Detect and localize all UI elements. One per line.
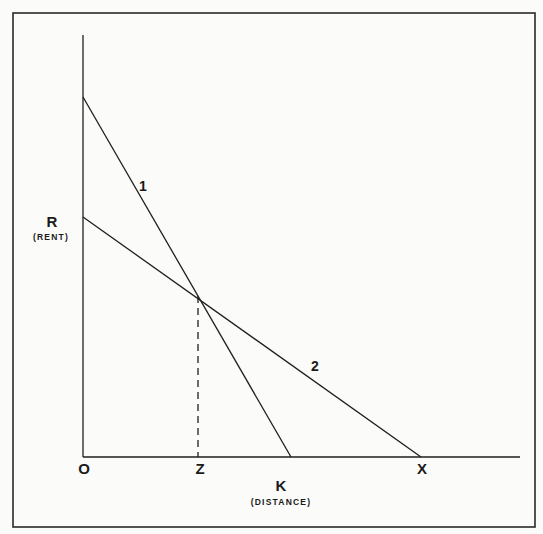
origin-label: O <box>78 460 90 477</box>
curve-1-label: 1 <box>139 178 147 194</box>
bid-rent-diagram: R (RENT) O Z X K (DISTANCE) 1 2 <box>0 0 543 534</box>
z-label: Z <box>195 460 204 477</box>
curve-2 <box>83 217 421 457</box>
x-axis-symbol: K <box>276 477 287 494</box>
figure-frame <box>13 13 535 527</box>
x-axis-caption: (DISTANCE) <box>251 497 311 507</box>
curve-1 <box>83 97 291 457</box>
curve-2-label: 2 <box>311 358 319 374</box>
x-intercept-label: X <box>417 460 427 477</box>
y-axis-caption: (RENT) <box>33 232 69 242</box>
y-axis-symbol: R <box>47 213 58 230</box>
